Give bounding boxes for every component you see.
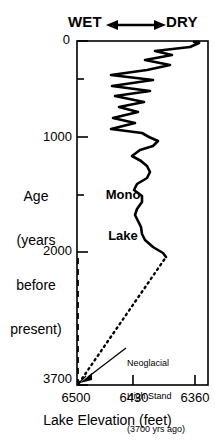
annotation-line-1: Neoglacial: [127, 358, 185, 369]
x-tick-label-6500: 6500: [54, 391, 98, 405]
series-label-mono-lake: Mono Lake: [98, 161, 148, 270]
double-arrow-icon: [106, 20, 166, 30]
neoglacial-high-stand-annotation: Neoglacial High Stand (3700 yrs ago): [127, 336, 185, 442]
y-axis-title-line-3: before: [0, 278, 72, 293]
series-label-line-1: Mono: [98, 188, 148, 202]
mono-lake-elevation-chart: WET DRY 0 1000 2000 3700 6500 6430 6360 …: [0, 0, 215, 442]
wet-direction-label: WET: [68, 14, 102, 30]
y-axis-title-line-1: Age: [0, 189, 72, 204]
series-label-line-2: Lake: [98, 229, 148, 243]
annotation-line-2: High Stand: [127, 391, 185, 402]
annotation-leader-arrow: [80, 348, 126, 383]
y-tick-label-0: 0: [56, 33, 70, 47]
y-axis-title-line-4: present): [0, 322, 72, 337]
dry-direction-label: DRY: [166, 14, 198, 30]
y-tick-label-1000: 1000: [14, 130, 72, 144]
y-tick-label-3700: 3700: [14, 372, 72, 386]
y-axis-title: Age (years before present): [0, 160, 72, 366]
annotation-line-3: (3700 yrs ago): [127, 424, 185, 435]
y-axis-title-line-2: (years: [0, 233, 72, 248]
y-axis-ticks: [77, 41, 88, 385]
